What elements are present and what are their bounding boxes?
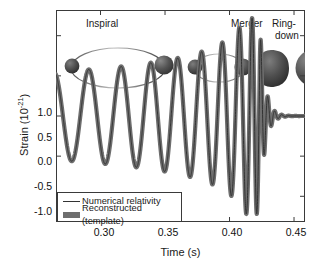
gravitational-wave-figure: Strain (10-21) 1.0 0.5 0.0 -0.5 -1.0 0.3… [0,0,321,268]
x-tick-label: 0.30 [83,226,125,238]
y-tick-label: -0.5 [18,180,52,192]
legend: Numerical relativity Reconstructed (temp… [57,192,182,222]
waveform-plot [56,10,305,222]
y-tick-label: -1.0 [18,205,52,217]
x-tick-label: 0.40 [211,226,253,238]
legend-label: Reconstructed (template) [82,202,178,228]
y-tick-label: 0.5 [18,131,52,143]
legend-entry-reconstructed: Reconstructed (template) [61,208,178,221]
legend-key-thin-line [61,201,82,202]
reconstructed-template-band [56,18,305,214]
x-tick-label: 0.35 [147,226,189,238]
y-tick-label: 0.0 [18,155,52,167]
x-tick-label: 0.45 [275,226,317,238]
x-axis-label: Time (s) [56,246,305,258]
y-tick-label: 1.0 [18,106,52,118]
y-axis-ticks: 1.0 0.5 0.0 -0.5 -1.0 [14,0,52,268]
legend-key-thick-band [61,212,82,218]
